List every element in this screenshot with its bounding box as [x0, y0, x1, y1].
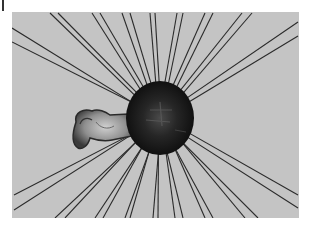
margin-mark: [2, 0, 4, 11]
micrograph-svg: [12, 12, 299, 218]
dark-body: [126, 81, 194, 155]
micrograph-photo: [12, 12, 299, 218]
